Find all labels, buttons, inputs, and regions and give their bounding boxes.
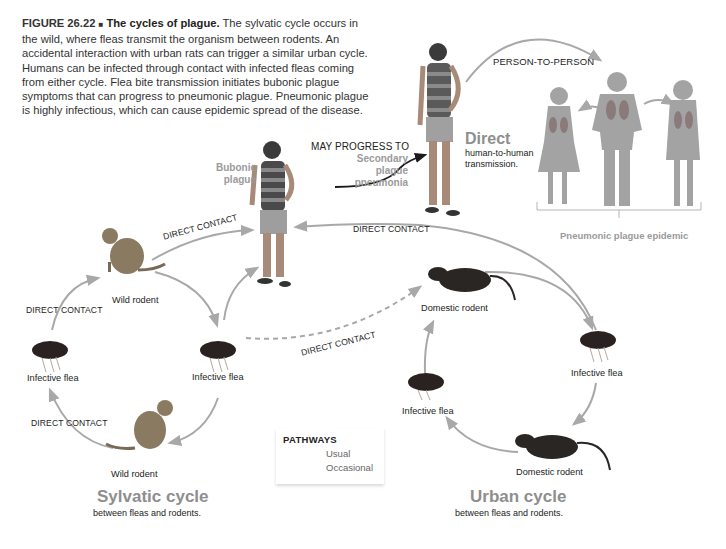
- legend-item-occasional: Occasional: [326, 462, 373, 473]
- direct-contact-top-left-label: DIRECT CONTACT: [26, 305, 103, 315]
- arrow-flea-right-to-wild-rodent-bottom: [170, 398, 218, 443]
- infective-flea-urban-left-label: Infective flea: [402, 406, 454, 416]
- domestic-rodent-top-label: Domestic rodent: [421, 303, 488, 313]
- wild-rodent-top-label: Wild rodent: [112, 295, 158, 305]
- arrow-wild-rodent-to-flea-right: [155, 272, 217, 325]
- arrow-occasional: [246, 287, 420, 339]
- arrow-flea-left-to-domestic-rodent: [425, 322, 433, 373]
- flea-urban-right-image: [580, 331, 616, 362]
- pneumonic-plague-person: [420, 43, 460, 216]
- epidemic-silhouette-left: [538, 87, 580, 204]
- person-to-person-label: PERSON-TO-PERSON: [493, 56, 594, 67]
- sylvatic-cycle-title: Sylvatic cycle: [97, 487, 209, 507]
- arrow-domestic-rodent-to-flea-right: [485, 272, 592, 328]
- wild-rodent-bottom-label: Wild rodent: [111, 469, 157, 479]
- arrow-epidemic-right: [644, 100, 673, 104]
- epidemic-silhouette-right: [666, 80, 700, 206]
- arrow-flea-to-human: [224, 268, 257, 320]
- domestic-rodent-bottom-label: Domestic rodent: [516, 467, 583, 477]
- legend-item-usual: Usual: [326, 448, 350, 459]
- flea-urban-left-image: [408, 373, 444, 400]
- arrow-flea-right-to-domestic-rodent: [574, 383, 596, 424]
- epidemic-label: Pneumonic plague epidemic: [560, 230, 688, 241]
- legend-title: PATHWAYS: [283, 434, 337, 445]
- urban-direct-contact-label: DIRECT CONTACT: [353, 224, 430, 234]
- pathways-legend: PATHWAYS Usual Occasional: [276, 428, 384, 484]
- arrow-domestic-rodent-to-flea-left: [447, 418, 518, 452]
- direct-transmission-label: Direct human-to-human transmission.: [465, 130, 534, 170]
- infective-flea-urban-right-label: Infective flea: [571, 368, 623, 378]
- urban-cycle-subtitle: between fleas and rodents.: [455, 508, 563, 518]
- arrow-flea-to-wild-rodent-top: [52, 278, 98, 330]
- epidemic-silhouette-middle: [592, 72, 642, 206]
- infective-flea-sylvatic-left-label: Infective flea: [27, 373, 79, 383]
- secondary-pneumonia-label: Secondary plague pneumonia: [350, 153, 408, 189]
- flea-sylvatic-right-image: [200, 341, 236, 372]
- direct-title: Direct: [465, 130, 534, 148]
- domestic-rodent-bottom-image: [515, 434, 610, 470]
- sylvatic-cycle-subtitle: between fleas and rodents.: [93, 508, 201, 518]
- infective-flea-sylvatic-right-label: Infective flea: [192, 372, 244, 382]
- wild-rodent-top-image: [102, 228, 165, 274]
- may-progress-label: MAY PROGRESS TO: [311, 141, 409, 152]
- bubonic-plague-label: Bubonic plague: [212, 162, 256, 186]
- wild-rodent-bottom-image: [106, 400, 173, 449]
- flea-sylvatic-left-image: [32, 341, 68, 372]
- direct-contact-bottom-left-label: DIRECT CONTACT: [31, 418, 108, 428]
- bubonic-plague-person: [252, 141, 292, 287]
- urban-cycle-title: Urban cycle: [470, 487, 566, 507]
